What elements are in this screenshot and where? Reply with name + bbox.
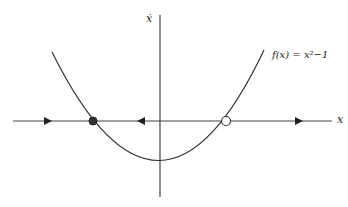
unstable-fixed-point [222,117,231,126]
phase-portrait [0,0,348,207]
function-label: f(x) = x²−1 [272,49,328,60]
arrow-right-icon [44,117,52,125]
arrow-right-icon [295,117,303,125]
arrow-left-icon [137,117,145,125]
stable-fixed-point [89,117,97,125]
x-axis-label: x [337,113,343,126]
parabola-curve [52,50,264,161]
y-axis-label: ẋ [146,12,152,25]
